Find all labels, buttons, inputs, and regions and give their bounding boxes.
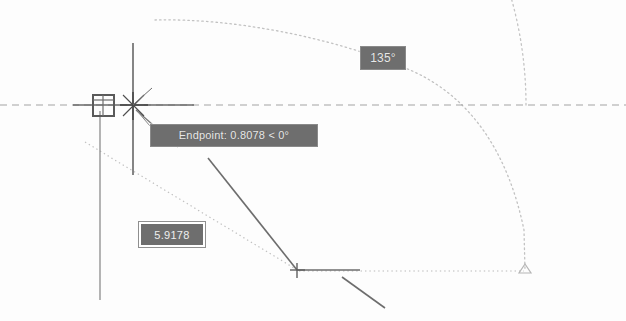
polyline-segment-down[interactable] bbox=[342, 277, 385, 308]
tooltip-leader-line bbox=[138, 112, 150, 126]
endpoint-osnap-tooltip: Endpoint: 0.8078 < 0° bbox=[150, 124, 318, 147]
length-input[interactable]: 5.9178 bbox=[139, 222, 205, 247]
endpoint-tooltip-label: Endpoint: 0.8078 < 0° bbox=[179, 130, 289, 141]
polar-angle-label: 135° bbox=[360, 46, 406, 70]
polar-tracking-arc bbox=[411, 0, 526, 105]
cad-drawing-surface[interactable] bbox=[0, 0, 626, 321]
cad-canvas[interactable]: Endpoint: 0.8078 < 0° 135° 5.9178 CAD dr… bbox=[0, 0, 626, 321]
dotted-diagonal-construction-line bbox=[85, 142, 299, 271]
polar-angle-value: 135° bbox=[370, 52, 396, 64]
active-drag-line[interactable] bbox=[208, 158, 297, 270]
length-input-value: 5.9178 bbox=[154, 229, 189, 241]
crosshair-cursor bbox=[120, 88, 152, 120]
